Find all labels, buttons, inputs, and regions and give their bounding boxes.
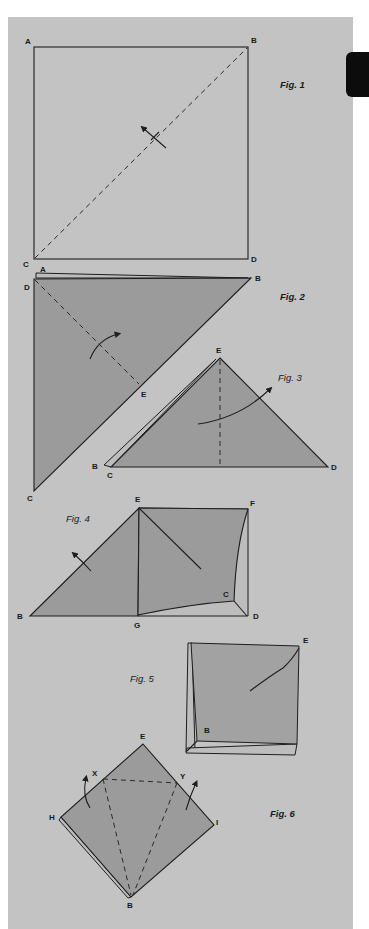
label-f: F	[250, 499, 255, 508]
label-d: D	[251, 255, 257, 264]
label-e: E	[216, 346, 222, 355]
folding-instructions-diagram: A B C D Fig. 1 A D B E C Fig. 2 E B C D …	[0, 0, 369, 929]
label-e: E	[141, 390, 147, 399]
label-b: B	[204, 726, 210, 735]
figure-4: E F B G C D Fig. 4	[17, 495, 259, 630]
label-e: E	[135, 495, 141, 504]
label-d: D	[331, 463, 337, 472]
label-c: C	[23, 260, 29, 269]
label-a: A	[40, 265, 46, 274]
label-h: H	[49, 813, 55, 822]
figure-caption: Fig. 5	[130, 673, 154, 684]
label-i: I	[216, 818, 218, 827]
label-b: B	[255, 274, 261, 283]
label-g: G	[134, 621, 140, 630]
label-c: C	[107, 471, 113, 480]
label-c: C	[223, 590, 229, 599]
figure-caption: Fig. 3	[278, 372, 302, 383]
label-c: C	[27, 494, 33, 503]
figure-1: A B C D Fig. 1	[23, 36, 305, 269]
label-x: X	[92, 769, 98, 778]
label-b: B	[17, 612, 23, 621]
label-y: Y	[180, 772, 186, 781]
layer-bottom	[186, 744, 297, 755]
label-b: B	[251, 36, 257, 45]
back-layer	[36, 273, 248, 278]
figure-5: E B Fig. 5	[130, 636, 309, 755]
diamond-ehib	[61, 744, 214, 897]
label-d: D	[253, 612, 259, 621]
figure-6: E X Y H I B Fig. 6	[49, 732, 296, 910]
fold-arrow-icon	[143, 128, 166, 148]
fold-line-cb	[35, 48, 247, 258]
figure-caption: Fig. 2	[280, 291, 306, 302]
label-b: B	[92, 462, 98, 471]
figure-caption: Fig. 1	[280, 79, 305, 90]
label-d: D	[24, 283, 30, 292]
label-b: B	[127, 901, 133, 910]
label-a: A	[25, 37, 31, 46]
figure-caption: Fig. 6	[270, 808, 296, 819]
figure-caption: Fig. 4	[66, 513, 90, 524]
label-e: E	[140, 732, 146, 741]
triangle-beg	[30, 508, 139, 616]
label-e: E	[303, 636, 309, 645]
